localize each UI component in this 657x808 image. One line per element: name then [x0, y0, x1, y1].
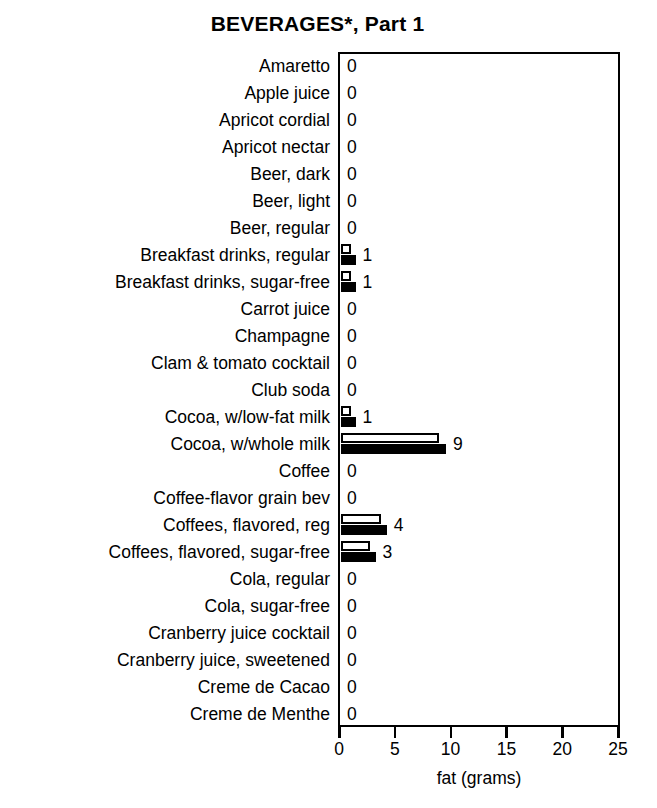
bar-value-label: 0 — [347, 376, 357, 404]
bar-zone: 4 — [341, 511, 657, 539]
table-row: Breakfast drinks, sugar-free1 — [0, 268, 657, 296]
bar-filled — [341, 525, 387, 535]
table-row: Coffees, flavored, reg4 — [0, 511, 657, 539]
bar-zone: 0 — [341, 79, 657, 107]
bar-value-label: 0 — [347, 592, 357, 620]
bar-hollow — [341, 406, 351, 416]
table-row: Apple juice0 — [0, 79, 657, 107]
bar-value-label: 0 — [347, 700, 357, 728]
x-tick-label: 20 — [552, 739, 571, 759]
bar-value-label: 1 — [363, 241, 373, 269]
bar-zone: 0 — [341, 295, 657, 323]
bar-value-label: 0 — [347, 619, 357, 647]
bar-zone: 0 — [341, 322, 657, 350]
category-label: Cranberry juice cocktail — [0, 619, 330, 647]
bar-value-label: 0 — [347, 646, 357, 674]
category-label: Beer, regular — [0, 214, 330, 242]
category-label: Creme de Menthe — [0, 700, 330, 728]
x-tick — [394, 727, 397, 738]
bar-zone: 0 — [341, 187, 657, 215]
bar-hollow — [341, 541, 370, 551]
table-row: Creme de Menthe0 — [0, 700, 657, 728]
bar-hollow — [341, 244, 351, 254]
category-label: Coffee — [0, 457, 330, 485]
bar-value-label: 0 — [347, 484, 357, 512]
category-label: Cocoa, w/low-fat milk — [0, 403, 330, 431]
table-row: Breakfast drinks, regular1 — [0, 241, 657, 269]
bar-hollow — [341, 433, 439, 443]
category-label: Cola, regular — [0, 565, 330, 593]
x-tick-label: 15 — [497, 739, 516, 759]
bar-value-label: 0 — [347, 133, 357, 161]
table-row: Cola, regular0 — [0, 565, 657, 593]
x-tick-label: 0 — [334, 739, 344, 759]
x-tick-label: 25 — [608, 739, 627, 759]
bar-value-label: 0 — [347, 52, 357, 80]
category-label: Apple juice — [0, 79, 330, 107]
bar-value-label: 0 — [347, 349, 357, 377]
category-label: Cranberry juice, sweetened — [0, 646, 330, 674]
table-row: Beer, regular0 — [0, 214, 657, 242]
category-label: Clam & tomato cocktail — [0, 349, 330, 377]
bar-zone: 1 — [341, 241, 657, 269]
x-tick — [450, 727, 453, 738]
x-axis-title: fat (grams) — [338, 768, 620, 789]
bar-zone: 0 — [341, 160, 657, 188]
category-label: Cola, sugar-free — [0, 592, 330, 620]
x-tick — [561, 727, 564, 738]
table-row: Cranberry juice cocktail0 — [0, 619, 657, 647]
bar-zone: 0 — [341, 52, 657, 80]
x-tick — [617, 727, 620, 738]
table-row: Coffee-flavor grain bev0 — [0, 484, 657, 512]
bar-filled — [341, 417, 356, 427]
bar-value-label: 0 — [347, 187, 357, 215]
page-title: BEVERAGES*, Part 1 — [0, 12, 657, 36]
bar-zone: 0 — [341, 376, 657, 404]
bar-rows-container: Amaretto0Apple juice0Apricot cordial0Apr… — [0, 52, 657, 727]
bar-filled — [341, 255, 356, 265]
bar-filled — [341, 552, 376, 562]
table-row: Creme de Cacao0 — [0, 673, 657, 701]
bar-value-label: 0 — [347, 673, 357, 701]
table-row: Cola, sugar-free0 — [0, 592, 657, 620]
bar-zone: 9 — [341, 430, 657, 458]
bar-zone: 0 — [341, 133, 657, 161]
table-row: Beer, light0 — [0, 187, 657, 215]
bar-zone: 0 — [341, 457, 657, 485]
bar-zone: 0 — [341, 619, 657, 647]
category-label: Cocoa, w/whole milk — [0, 430, 330, 458]
table-row: Coffee0 — [0, 457, 657, 485]
bar-value-label: 3 — [383, 538, 393, 566]
table-row: Clam & tomato cocktail0 — [0, 349, 657, 377]
category-label: Champagne — [0, 322, 330, 350]
bar-zone: 0 — [341, 700, 657, 728]
table-row: Club soda0 — [0, 376, 657, 404]
bar-hollow — [341, 271, 351, 281]
x-axis: 0510152025 — [338, 727, 620, 767]
bar-value-label: 1 — [363, 403, 373, 431]
category-label: Beer, light — [0, 187, 330, 215]
bar-value-label: 0 — [347, 106, 357, 134]
bar-value-label: 0 — [347, 160, 357, 188]
category-label: Amaretto — [0, 52, 330, 80]
category-label: Apricot cordial — [0, 106, 330, 134]
table-row: Apricot nectar0 — [0, 133, 657, 161]
bar-value-label: 0 — [347, 457, 357, 485]
category-label: Creme de Cacao — [0, 673, 330, 701]
bar-zone: 0 — [341, 214, 657, 242]
x-tick-label: 5 — [390, 739, 400, 759]
bar-zone: 0 — [341, 349, 657, 377]
table-row: Cranberry juice, sweetened0 — [0, 646, 657, 674]
bar-zone: 1 — [341, 403, 657, 431]
bar-zone: 0 — [341, 106, 657, 134]
bar-value-label: 0 — [347, 565, 357, 593]
bar-zone: 0 — [341, 592, 657, 620]
bar-filled — [341, 444, 446, 454]
bar-zone: 1 — [341, 268, 657, 296]
bar-value-label: 0 — [347, 295, 357, 323]
bar-zone: 0 — [341, 565, 657, 593]
bar-value-label: 0 — [347, 79, 357, 107]
category-label: Breakfast drinks, regular — [0, 241, 330, 269]
category-label: Carrot juice — [0, 295, 330, 323]
category-label: Apricot nectar — [0, 133, 330, 161]
